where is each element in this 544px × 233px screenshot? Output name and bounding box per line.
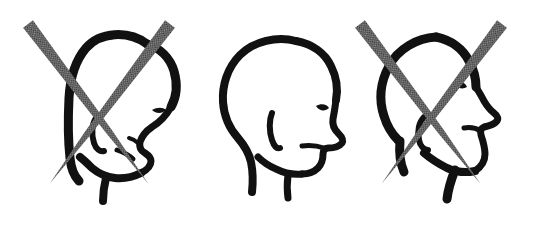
center-head-neck-front [287, 175, 288, 198]
illustration-canvas [0, 0, 544, 233]
left-head-neck-front [103, 178, 106, 201]
head-posture-figure: Head posture profile comparison Three ri… [0, 0, 544, 233]
center-head-mouth [302, 146, 324, 148]
